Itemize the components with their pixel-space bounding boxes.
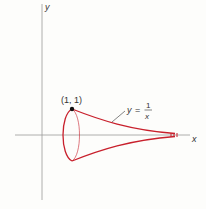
point-1-1 bbox=[70, 107, 74, 111]
leader-line bbox=[112, 111, 125, 122]
point-label: (1, 1) bbox=[61, 95, 82, 105]
curve-label-equals: = bbox=[135, 105, 140, 115]
upper-curve bbox=[72, 109, 175, 134]
curve-label-lhs: y bbox=[126, 105, 132, 115]
curve-label-denominator: x bbox=[144, 112, 150, 121]
horn-diagram: y x (1, 1) y = 1 x bbox=[0, 0, 206, 209]
curve-label-numerator: 1 bbox=[146, 101, 151, 110]
x-axis-label: x bbox=[191, 134, 197, 144]
y-axis-label: y bbox=[44, 2, 50, 12]
lower-curve bbox=[72, 137, 175, 162]
